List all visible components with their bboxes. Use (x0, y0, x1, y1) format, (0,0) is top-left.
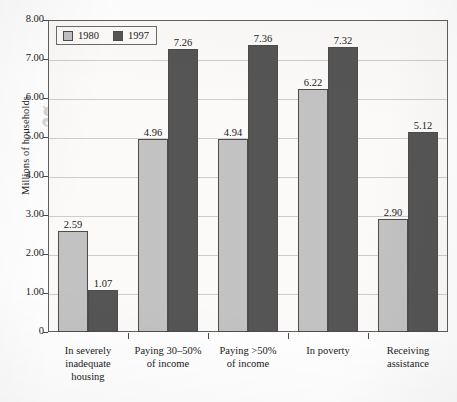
x-axis-tick-mark (128, 333, 129, 339)
bar-1980-1: 2.59 (58, 231, 88, 332)
legend-item-1980: 1980 (63, 30, 99, 41)
y-axis-tick-mark (43, 293, 48, 294)
x-axis-category-line: Receiving (368, 344, 448, 357)
y-axis-tick-mark (43, 332, 48, 333)
y-axis-tick-label: 8.00 (0, 13, 44, 24)
y-axis-tick-label: 0 (0, 325, 44, 336)
bar-1980-2: 4.96 (138, 139, 168, 332)
legend-label-1997: 1997 (128, 30, 149, 41)
chart-legend: 1980 1997 (56, 26, 157, 45)
y-axis-tick-label: 1.00 (0, 286, 44, 297)
x-axis-category-line: assistance (368, 357, 448, 370)
x-axis-category-label: Paying >50%of income (208, 344, 288, 370)
y-axis-title: Millions of households (20, 66, 31, 226)
bar-1980-5: 2.90 (378, 219, 408, 332)
bars-layer: 2.591.074.967.264.947.366.227.322.905.12 (48, 20, 448, 332)
bar-value-label: 7.26 (174, 37, 192, 48)
x-axis-category-line: In severely (48, 344, 128, 357)
x-axis-category-line: of income (128, 357, 208, 370)
bar-1997-5: 5.12 (408, 132, 438, 332)
bar-group: 4.947.36 (208, 20, 288, 332)
bar-value-label: 6.22 (304, 77, 322, 88)
x-axis-category-line: In poverty (288, 344, 368, 357)
y-axis-tick-mark (43, 137, 48, 138)
x-axis-tick-mark (288, 333, 289, 339)
legend-swatch-1997-icon (113, 31, 123, 41)
bar-1997-2: 7.26 (168, 49, 198, 332)
bar-1997-4: 7.32 (328, 47, 358, 332)
legend-item-1997: 1997 (113, 30, 149, 41)
x-axis-category-label: Paying 30–50%of income (128, 344, 208, 370)
bar-1980-3: 4.94 (218, 139, 248, 332)
bar-value-label: 5.12 (414, 120, 432, 131)
bar-1997-1: 1.07 (88, 290, 118, 332)
x-axis-category-label: In severelyinadequatehousing (48, 344, 128, 383)
x-axis-tick-mark (368, 333, 369, 339)
y-axis-tick-label: 7.00 (0, 52, 44, 63)
bar-value-label: 4.94 (224, 127, 242, 138)
x-axis-category-label: Receivingassistance (368, 344, 448, 370)
x-axis-category-line: inadequate (48, 357, 128, 370)
bar-group: 2.591.07 (48, 20, 128, 332)
y-axis-tick-label: 4.00 (0, 169, 44, 180)
x-axis-category-label: In poverty (288, 344, 368, 357)
bar-chart: Housing Poli for Promoting Millions of h… (0, 0, 457, 402)
y-axis-tick-label: 5.00 (0, 130, 44, 141)
bar-value-label: 7.32 (334, 35, 352, 46)
bar-value-label: 2.90 (384, 207, 402, 218)
bar-value-label: 1.07 (94, 278, 112, 289)
y-axis-tick-mark (43, 176, 48, 177)
x-axis-category-line: Paying >50% (208, 344, 288, 357)
bar-1997-3: 7.36 (248, 45, 278, 332)
legend-swatch-1980-icon (63, 31, 73, 41)
bar-value-label: 7.36 (254, 33, 272, 44)
bar-group: 4.967.26 (128, 20, 208, 332)
y-axis-tick-mark (43, 59, 48, 60)
x-axis-category-line: Paying 30–50% (128, 344, 208, 357)
bar-group: 6.227.32 (288, 20, 368, 332)
legend-label-1980: 1980 (78, 30, 99, 41)
y-axis-tick-mark (43, 98, 48, 99)
x-axis-category-line: housing (48, 370, 128, 383)
y-axis-tick-mark (43, 254, 48, 255)
y-axis-tick-label: 2.00 (0, 247, 44, 258)
y-axis-tick-label: 6.00 (0, 91, 44, 102)
bar-group: 2.905.12 (368, 20, 448, 332)
x-axis-category-line: of income (208, 357, 288, 370)
x-axis-tick-mark (208, 333, 209, 339)
y-axis-tick-mark (43, 215, 48, 216)
y-axis-tick-mark (43, 20, 48, 21)
y-axis-tick-label: 3.00 (0, 208, 44, 219)
bar-value-label: 2.59 (64, 219, 82, 230)
bar-value-label: 4.96 (144, 127, 162, 138)
bar-1980-4: 6.22 (298, 89, 328, 332)
